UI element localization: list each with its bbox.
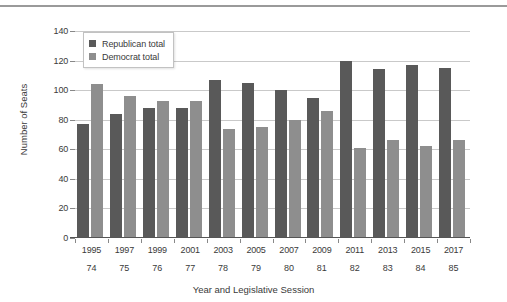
bar-republican[interactable] bbox=[143, 108, 155, 238]
x-axis-year-label: 2013 bbox=[371, 245, 405, 255]
x-axis-session-label: 79 bbox=[239, 263, 273, 273]
y-axis-tick-label: 100 bbox=[38, 86, 68, 95]
bar-group bbox=[338, 31, 371, 238]
y-axis-tick-label: 120 bbox=[38, 57, 68, 66]
x-axis-year-label: 2017 bbox=[437, 245, 471, 255]
x-axis-tick-mark bbox=[371, 239, 372, 243]
bar-group bbox=[207, 31, 240, 238]
y-axis-tick-label: 40 bbox=[38, 175, 68, 184]
x-axis-session-label: 84 bbox=[404, 263, 438, 273]
y-axis-tick-label: 60 bbox=[38, 145, 68, 154]
x-axis-tick-mark bbox=[305, 239, 306, 243]
bar-democrat[interactable] bbox=[387, 140, 399, 238]
y-axis-title-container: Number of Seats bbox=[14, 0, 34, 238]
x-axis-year-label: 2015 bbox=[404, 245, 438, 255]
bar-republican[interactable] bbox=[176, 108, 188, 238]
bar-democrat[interactable] bbox=[354, 148, 366, 238]
bar-group bbox=[305, 31, 338, 238]
bar-democrat[interactable] bbox=[124, 96, 136, 238]
legend-label-republican: Republican total bbox=[102, 39, 165, 49]
bar-republican[interactable] bbox=[340, 61, 352, 238]
bar-republican[interactable] bbox=[307, 98, 319, 238]
x-axis-session-label: 82 bbox=[338, 263, 372, 273]
x-axis-year-label: 2005 bbox=[239, 245, 273, 255]
bar-democrat[interactable] bbox=[420, 146, 432, 238]
x-axis-tick-mark bbox=[207, 239, 208, 243]
y-axis-tick-label: 140 bbox=[38, 27, 68, 36]
x-axis-year-label: 1995 bbox=[74, 245, 108, 255]
x-axis-tick-mark bbox=[141, 239, 142, 243]
x-axis-session-label: 85 bbox=[437, 263, 471, 273]
bar-republican[interactable] bbox=[242, 83, 254, 238]
bar-democrat[interactable] bbox=[190, 101, 202, 239]
x-axis-year-label: 2001 bbox=[173, 245, 207, 255]
x-axis-session-label: 77 bbox=[173, 263, 207, 273]
bar-republican[interactable] bbox=[110, 114, 122, 238]
legend-item-democrat[interactable]: Democrat total bbox=[89, 50, 165, 63]
x-axis-tick-mark bbox=[338, 239, 339, 243]
x-axis-session-label: 81 bbox=[305, 263, 339, 273]
x-axis-year-label: 2009 bbox=[305, 245, 339, 255]
top-divider-rule bbox=[0, 5, 507, 7]
x-axis-tick-mark bbox=[437, 239, 438, 243]
x-axis-line bbox=[70, 237, 470, 238]
bar-group bbox=[371, 31, 404, 238]
x-axis-year-label: 1997 bbox=[107, 245, 141, 255]
x-axis-session-label: 74 bbox=[74, 263, 108, 273]
bar-democrat[interactable] bbox=[157, 101, 169, 239]
bar-republican[interactable] bbox=[373, 69, 385, 238]
bar-group bbox=[174, 31, 207, 238]
bar-democrat[interactable] bbox=[321, 111, 333, 238]
legend-swatch-democrat bbox=[89, 53, 96, 60]
x-axis-tick-mark bbox=[470, 239, 471, 243]
x-axis-tick-mark bbox=[75, 239, 76, 243]
x-axis-session-label: 80 bbox=[272, 263, 306, 273]
legend-label-democrat: Democrat total bbox=[102, 52, 159, 62]
bar-group bbox=[240, 31, 273, 238]
legend-item-republican[interactable]: Republican total bbox=[89, 37, 165, 50]
y-axis-tick-label: 80 bbox=[38, 116, 68, 125]
bar-republican[interactable] bbox=[439, 68, 451, 238]
bar-democrat[interactable] bbox=[289, 120, 301, 238]
bar-republican[interactable] bbox=[406, 65, 418, 238]
bar-democrat[interactable] bbox=[91, 84, 103, 238]
bar-republican[interactable] bbox=[77, 124, 89, 238]
legend-swatch-republican bbox=[89, 40, 96, 47]
bar-democrat[interactable] bbox=[223, 129, 235, 238]
x-axis-tick-mark bbox=[404, 239, 405, 243]
bar-democrat[interactable] bbox=[256, 127, 268, 238]
x-axis-tick-mark bbox=[240, 239, 241, 243]
x-axis-tick-mark bbox=[174, 239, 175, 243]
x-axis-year-label: 1999 bbox=[140, 245, 174, 255]
x-axis-year-label: 2003 bbox=[206, 245, 240, 255]
bar-group bbox=[437, 31, 470, 238]
x-axis-session-label: 76 bbox=[140, 263, 174, 273]
y-axis-title: Number of Seats bbox=[19, 83, 30, 154]
x-axis-tick-mark bbox=[273, 239, 274, 243]
bar-group bbox=[273, 31, 306, 238]
y-axis-tick-label: 20 bbox=[38, 204, 68, 213]
x-axis-year-label: 2011 bbox=[338, 245, 372, 255]
bar-democrat[interactable] bbox=[453, 140, 465, 238]
x-axis-session-label: 78 bbox=[206, 263, 240, 273]
x-axis-tick-mark bbox=[108, 239, 109, 243]
bar-republican[interactable] bbox=[275, 90, 287, 238]
chart-legend: Republican total Democrat total bbox=[83, 32, 174, 68]
y-axis-tick-label: 0 bbox=[38, 234, 68, 243]
bar-republican[interactable] bbox=[209, 80, 221, 238]
x-axis-session-label: 83 bbox=[371, 263, 405, 273]
x-axis-year-label: 2007 bbox=[272, 245, 306, 255]
x-axis-session-label: 75 bbox=[107, 263, 141, 273]
bar-group bbox=[404, 31, 437, 238]
chart-figure: Number of Seats 020406080100120140 19957… bbox=[0, 0, 507, 302]
x-axis-title: Year and Legislative Session bbox=[0, 284, 507, 295]
